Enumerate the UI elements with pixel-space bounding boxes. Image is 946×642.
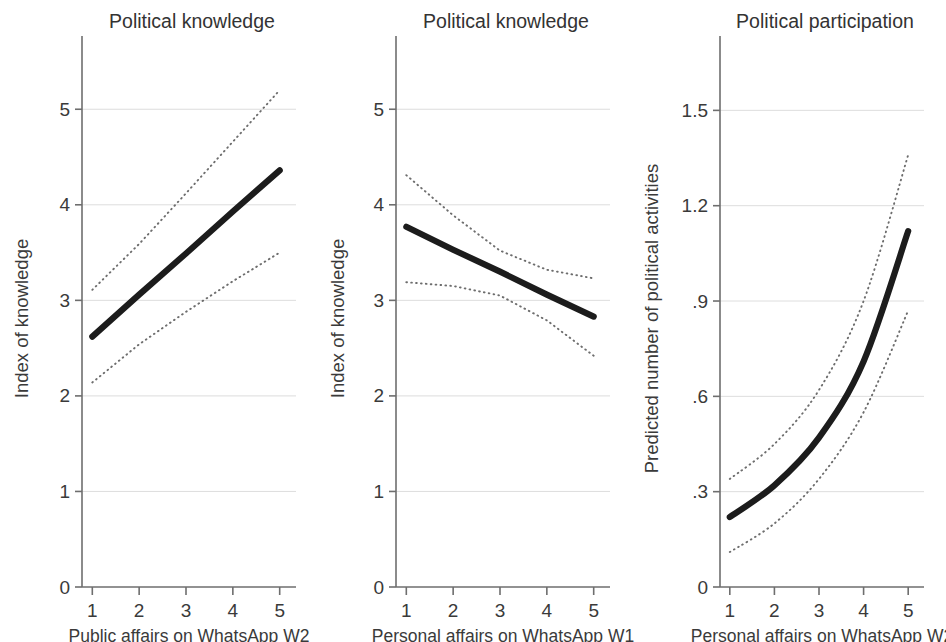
y-tick-label: 0 <box>59 577 70 598</box>
x-tick-label: 2 <box>134 600 145 621</box>
y-tick-label: 1.2 <box>682 195 708 216</box>
confidence-interval-line <box>406 282 593 356</box>
chart-panel-political-knowledge-personal-affairs: Political knowledge01234512345Personal a… <box>316 0 636 642</box>
chart-svg-2: Political participation0.3.6.91.21.51234… <box>632 0 946 642</box>
y-tick-label: 3 <box>59 290 70 311</box>
series-group <box>730 155 908 552</box>
panel-title: Political participation <box>736 10 914 32</box>
y-axis-title: Index of knowledge <box>11 239 32 398</box>
y-tick-label: 4 <box>373 194 384 215</box>
panel-title: Political knowledge <box>109 10 275 32</box>
x-tick-label: 1 <box>401 600 412 621</box>
chart-svg-1: Political knowledge01234512345Personal a… <box>316 0 636 642</box>
confidence-interval-line <box>406 175 593 278</box>
y-axis: 012345 <box>59 36 82 598</box>
y-tick-label: .6 <box>692 386 708 407</box>
y-axis: 0.3.6.91.21.5 <box>682 36 720 598</box>
y-tick-label: 1 <box>59 481 70 502</box>
x-tick-label: 2 <box>448 600 459 621</box>
chart-panel-political-participation: Political participation0.3.6.91.21.51234… <box>632 0 946 642</box>
x-tick-label: 2 <box>769 600 780 621</box>
confidence-interval-line <box>92 90 279 290</box>
gridlines <box>82 109 296 491</box>
x-axis: 12345 <box>82 587 296 621</box>
y-tick-label: 3 <box>373 290 384 311</box>
fit-line <box>406 227 593 317</box>
figure-caption <box>0 633 946 642</box>
figure-container: Political knowledge01234512345Public aff… <box>0 0 946 642</box>
y-tick-label: 1.5 <box>682 100 708 121</box>
x-tick-label: 5 <box>588 600 599 621</box>
chart-svg-0: Political knowledge01234512345Public aff… <box>0 0 320 642</box>
series-group <box>92 90 279 382</box>
gridlines <box>396 109 610 491</box>
y-tick-label: 2 <box>59 385 70 406</box>
x-tick-label: 4 <box>542 600 553 621</box>
x-axis: 12345 <box>396 587 610 621</box>
x-tick-label: 3 <box>181 600 192 621</box>
y-tick-label: 0 <box>373 577 384 598</box>
x-tick-label: 5 <box>903 600 914 621</box>
x-tick-label: 3 <box>814 600 825 621</box>
x-tick-label: 1 <box>87 600 98 621</box>
y-tick-label: 2 <box>373 385 384 406</box>
y-tick-label: 5 <box>373 99 384 120</box>
y-axis-title: Predicted number of political activities <box>641 164 662 474</box>
x-tick-label: 3 <box>495 600 506 621</box>
y-tick-label: 5 <box>59 99 70 120</box>
series-group <box>406 175 593 356</box>
y-tick-label: 0 <box>697 577 708 598</box>
y-axis: 012345 <box>373 36 396 598</box>
fit-line <box>730 231 908 517</box>
confidence-interval-line <box>92 253 279 383</box>
y-tick-label: 4 <box>59 194 70 215</box>
x-axis: 12345 <box>720 587 924 621</box>
panel-title: Political knowledge <box>423 10 589 32</box>
y-tick-label: 1 <box>373 481 384 502</box>
y-tick-label: .9 <box>692 291 708 312</box>
y-tick-label: .3 <box>692 481 708 502</box>
x-tick-label: 4 <box>228 600 239 621</box>
chart-panel-political-knowledge-public-affairs: Political knowledge01234512345Public aff… <box>0 0 320 642</box>
confidence-interval-line <box>730 311 908 552</box>
x-tick-label: 4 <box>858 600 869 621</box>
x-tick-label: 1 <box>725 600 736 621</box>
y-axis-title: Index of knowledge <box>327 239 348 398</box>
x-tick-label: 5 <box>274 600 285 621</box>
